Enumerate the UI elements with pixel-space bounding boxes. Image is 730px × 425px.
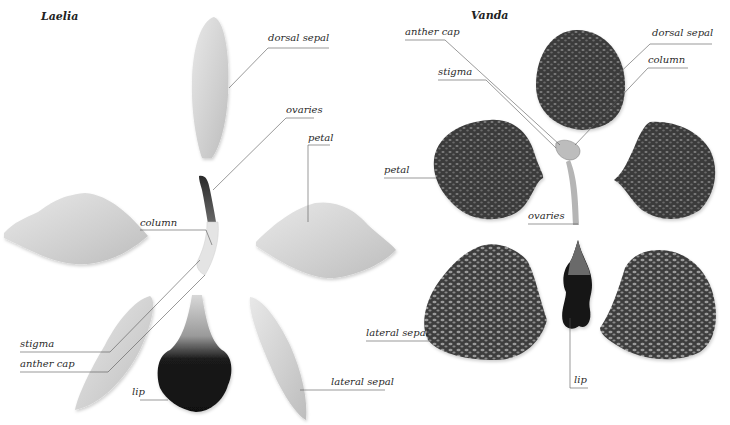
laelia-dorsal-sepal bbox=[192, 17, 229, 158]
vanda-label-ovaries: ovaries bbox=[528, 210, 565, 222]
laelia-label-lip: lip bbox=[132, 386, 145, 398]
vanda-dorsal-sepal bbox=[536, 30, 625, 130]
laelia-right-petal bbox=[256, 202, 396, 278]
orchid-anatomy-diagram: Laelia Vanda dorsal sepal ovaries petal … bbox=[0, 0, 730, 425]
vanda-label-column: column bbox=[648, 54, 685, 66]
laelia-label-dorsal-sepal: dorsal sepal bbox=[268, 32, 329, 44]
vanda-title: Vanda bbox=[471, 9, 508, 22]
laelia-label-anther-cap: anther cap bbox=[20, 358, 75, 370]
laelia-label-lateral-sepal: lateral sepal bbox=[331, 376, 394, 388]
vanda-label-anther-cap: anther cap bbox=[405, 26, 460, 38]
laelia-right-lateral-sepal bbox=[250, 297, 307, 420]
vanda-left-petal bbox=[434, 120, 543, 219]
vanda-lip bbox=[562, 240, 592, 329]
laelia-label-petal: petal bbox=[308, 132, 334, 144]
vanda-right-petal bbox=[614, 122, 715, 219]
vanda-label-petal: petal bbox=[384, 164, 410, 176]
diagram-artwork bbox=[0, 0, 730, 425]
laelia-title: Laelia bbox=[41, 10, 78, 23]
vanda-left-lateral-sepal bbox=[424, 244, 547, 360]
vanda-label-lateral-sepal: lateral sepal bbox=[366, 327, 429, 339]
vanda-label-stigma: stigma bbox=[438, 66, 472, 78]
laelia-left-petal bbox=[4, 193, 148, 264]
laelia-label-stigma: stigma bbox=[20, 338, 54, 350]
vanda-label-dorsal-sepal: dorsal sepal bbox=[652, 27, 713, 39]
vanda-right-lateral-sepal bbox=[600, 250, 716, 359]
laelia-lip bbox=[158, 295, 232, 412]
laelia-label-ovaries: ovaries bbox=[286, 104, 323, 116]
vanda-label-lip: lip bbox=[574, 374, 587, 386]
laelia-label-column: column bbox=[140, 217, 177, 229]
